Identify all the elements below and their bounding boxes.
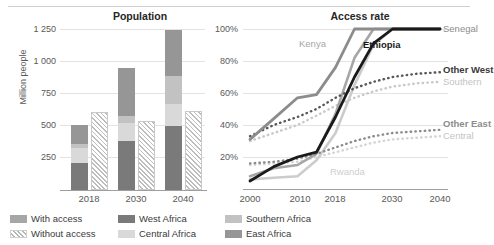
legend-swatch-without-access [10, 230, 27, 238]
series-label-other-east: Other East [443, 118, 491, 129]
legend-swatch-west-africa [118, 215, 135, 223]
line-ethiopia [250, 29, 440, 181]
series-label-other-west: Other West [443, 64, 494, 75]
legend-item-with-access[interactable]: With access [10, 213, 82, 224]
legend-label-southern-africa: Southern Africa [246, 213, 311, 224]
access-xtick-2040: 2040 [412, 193, 468, 204]
access-xtick-2000: 2000 [222, 193, 278, 204]
legend-swatch-southern-africa [225, 215, 242, 223]
series-label-southern: Southern [443, 76, 482, 87]
legend-item-without-access[interactable]: Without access [10, 228, 95, 239]
legend-label-central-africa: Central Africa [139, 228, 196, 239]
access-x-axis [243, 189, 448, 190]
legend-swatch-east-africa [225, 230, 242, 238]
series-label-central: Central [443, 130, 474, 141]
legend-item-west-africa[interactable]: West Africa [118, 213, 187, 224]
legend-item-central-africa[interactable]: Central Africa [118, 228, 196, 239]
access-xtick-2018: 2018 [307, 193, 363, 204]
legend-swatch-central-africa [118, 230, 135, 238]
legend-label-without-access: Without access [31, 228, 95, 239]
legend-item-east-africa[interactable]: East Africa [225, 228, 291, 239]
line-other-east [250, 130, 440, 164]
legend-label-west-africa: West Africa [139, 213, 187, 224]
series-label-kenya: Kenya [299, 38, 326, 49]
legend-item-southern-africa[interactable]: Southern Africa [225, 213, 311, 224]
series-label-ethiopia: Ethiopia [363, 39, 400, 50]
series-label-rwanda: Rwanda [330, 166, 365, 177]
legend-swatch-with-access [10, 215, 27, 223]
legend-label-east-africa: East Africa [246, 228, 291, 239]
line-rwanda [250, 29, 440, 179]
series-label-senegal: Senegal [443, 23, 478, 34]
legend-label-with-access: With access [31, 213, 82, 224]
